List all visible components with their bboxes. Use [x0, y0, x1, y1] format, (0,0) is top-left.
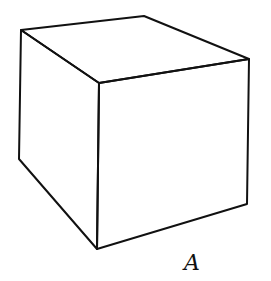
figure-label: A [184, 252, 200, 274]
cube [19, 16, 249, 249]
cube-drawing [0, 0, 271, 281]
cube-left-face [19, 30, 99, 249]
cube-top-face [21, 16, 249, 83]
cube-front-face [97, 59, 249, 249]
